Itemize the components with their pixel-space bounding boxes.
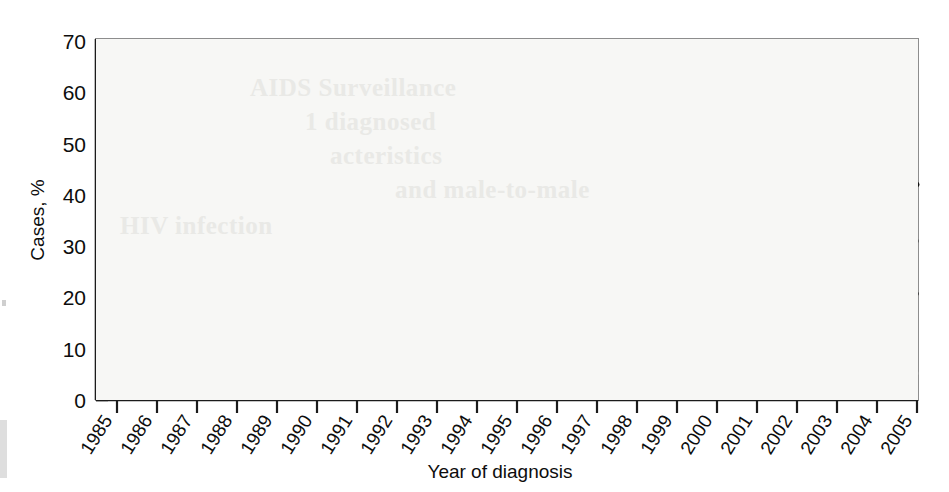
hetero-label: High-risk heterosexual contact* [168, 300, 438, 322]
series-line [117, 356, 917, 373]
x-tick-label: 1999 [636, 411, 676, 458]
x-tick-label: 2000 [676, 411, 716, 458]
line-chart-svg: 010203040506070 198519861987198819891990… [0, 0, 949, 492]
x-tick-label: 1987 [156, 411, 196, 458]
idu-label: Injection drug use (IDU) [130, 229, 336, 251]
x-tick-label: 1988 [196, 411, 236, 458]
x-tick-label: 1993 [396, 411, 436, 458]
x-tick-label: 1992 [356, 411, 396, 458]
y-tick-label: 20 [63, 286, 86, 309]
x-axis-title: Year of diagnosis [427, 461, 572, 482]
y-tick-label: 50 [63, 133, 86, 156]
y-tick-label: 40 [63, 184, 86, 207]
y-tick-label: 0 [74, 389, 86, 412]
y-tick-label: 10 [63, 338, 86, 361]
x-tick-label: 2003 [796, 411, 836, 458]
x-tick-label: 2002 [756, 411, 796, 458]
series-line [117, 244, 917, 307]
msm-idu-label: Male-to-male sexual contact and IDU [530, 307, 851, 329]
x-tick-label: 2005 [876, 411, 916, 458]
idu-leader [257, 254, 277, 275]
x-tick-label: 2004 [836, 411, 876, 458]
series-line [117, 74, 917, 199]
x-axis-ticks: 1985198619871988198919901991199219931994… [76, 400, 917, 458]
x-tick-label: 1997 [556, 411, 596, 458]
x-tick-label: 1985 [76, 411, 116, 458]
plot-frame-border [96, 39, 918, 400]
x-tick-label: 2001 [716, 411, 756, 458]
plot-frame [96, 39, 918, 400]
y-tick-label: 60 [63, 81, 86, 104]
x-tick-label: 1986 [116, 411, 156, 458]
y-tick-label: 70 [63, 30, 86, 53]
x-tick-label: 1996 [516, 411, 556, 458]
page-edge-artifact [0, 420, 7, 478]
x-tick-label: 1995 [476, 411, 516, 458]
y-tick-label: 30 [63, 235, 86, 258]
x-tick-label: 1994 [436, 411, 476, 458]
chart-figure: AIDS Surveillance 1 diagnosed acteristic… [0, 0, 949, 492]
annotation-labels: Male-to-male sexual contactInjection dru… [130, 148, 856, 329]
y-axis-title: Cases, % [27, 179, 48, 260]
y-axis-ticks: 010203040506070 [63, 30, 108, 412]
msm-idu-leader [655, 332, 672, 356]
page-speck-artifact [2, 300, 6, 306]
x-tick-label: 1998 [596, 411, 636, 458]
msm-label: Male-to-male sexual contact [612, 148, 856, 170]
x-tick-label: 1991 [316, 411, 356, 458]
x-tick-label: 1989 [236, 411, 276, 458]
x-tick-label: 1990 [276, 411, 316, 458]
